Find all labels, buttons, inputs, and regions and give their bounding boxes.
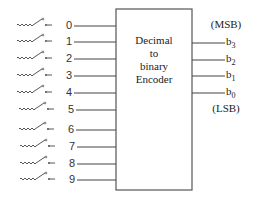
switch-lead xyxy=(20,145,36,147)
diagram-svg: Decimal to binary Encoder 0123456789 (MS… xyxy=(0,0,256,202)
switch-blade xyxy=(36,157,45,163)
switch-blade xyxy=(33,69,42,75)
input-group: 0123456789 xyxy=(17,18,116,185)
output-group: b3b2b1b0 xyxy=(192,35,236,100)
input-label: 4 xyxy=(66,86,72,98)
lsb-label: (LSB) xyxy=(212,102,240,115)
input-8: 8 xyxy=(20,156,116,169)
switch-lead xyxy=(19,128,35,130)
encoder-diagram: Decimal to binary Encoder 0123456789 (MS… xyxy=(0,0,256,202)
input-label: 6 xyxy=(68,123,74,135)
input-6: 6 xyxy=(19,122,116,135)
block-line-2: to xyxy=(150,47,159,59)
input-2: 2 xyxy=(17,51,116,64)
switch-lead xyxy=(20,162,36,164)
switch-lead xyxy=(20,178,36,180)
output-label: b1 xyxy=(226,68,236,83)
output-label: b0 xyxy=(226,85,236,100)
switch-blade xyxy=(33,86,42,92)
switch-blade xyxy=(33,35,42,41)
block-line-3: binary xyxy=(140,60,169,72)
switch-blade xyxy=(33,52,42,58)
block-line-1: Decimal xyxy=(135,34,172,46)
switch-blade xyxy=(36,140,45,146)
switch-blade xyxy=(36,173,45,179)
input-3: 3 xyxy=(17,68,116,81)
output-label: b2 xyxy=(226,52,236,67)
switch-lead xyxy=(17,57,33,59)
output-b0: b0 xyxy=(192,85,236,100)
output-label: b3 xyxy=(226,35,236,50)
input-label: 0 xyxy=(66,19,72,31)
switch-blade xyxy=(35,103,44,109)
input-label: 3 xyxy=(66,69,72,81)
input-label: 2 xyxy=(66,52,72,64)
block-line-4: Encoder xyxy=(136,73,173,85)
switch-blade xyxy=(33,19,42,25)
input-4: 4 xyxy=(17,85,116,98)
switch-lead xyxy=(17,91,33,93)
input-label: 5 xyxy=(68,103,74,115)
input-label: 7 xyxy=(69,140,75,152)
input-9: 9 xyxy=(20,172,116,185)
input-label: 8 xyxy=(69,157,75,169)
switch-lead xyxy=(19,108,35,110)
output-b2: b2 xyxy=(192,52,236,67)
input-label: 1 xyxy=(66,35,72,47)
output-b1: b1 xyxy=(192,68,236,83)
switch-lead xyxy=(17,40,33,42)
input-1: 1 xyxy=(17,34,116,47)
input-label: 9 xyxy=(69,173,75,185)
output-b3: b3 xyxy=(192,35,236,50)
switch-lead xyxy=(17,24,33,26)
input-5: 5 xyxy=(19,102,116,115)
msb-label: (MSB) xyxy=(211,18,242,31)
input-7: 7 xyxy=(20,139,116,152)
input-0: 0 xyxy=(17,18,116,31)
switch-lead xyxy=(17,74,33,76)
switch-blade xyxy=(35,123,44,129)
